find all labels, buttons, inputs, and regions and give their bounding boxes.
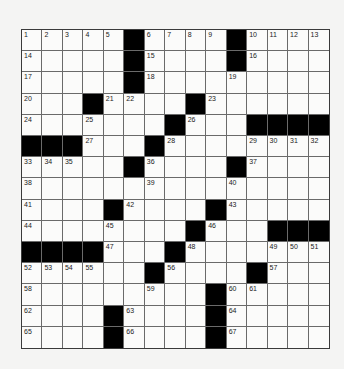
grid-cell[interactable] (206, 51, 226, 72)
grid-cell[interactable]: 44 (22, 221, 42, 242)
grid-cell[interactable]: 4 (83, 30, 103, 51)
grid-cell[interactable]: 10 (247, 30, 267, 51)
grid-cell[interactable]: 12 (288, 30, 308, 51)
grid-cell[interactable] (206, 178, 226, 199)
grid-cell[interactable]: 64 (227, 306, 247, 327)
grid-cell[interactable] (42, 327, 62, 348)
grid-cell[interactable]: 42 (124, 200, 144, 221)
grid-cell[interactable] (42, 51, 62, 72)
grid-cell[interactable] (42, 178, 62, 199)
grid-cell[interactable] (268, 200, 288, 221)
grid-cell[interactable] (83, 157, 103, 178)
grid-cell[interactable]: 7 (165, 30, 185, 51)
grid-cell[interactable]: 26 (186, 115, 206, 136)
grid-cell[interactable] (268, 327, 288, 348)
grid-cell[interactable] (104, 263, 124, 284)
grid-cell[interactable] (227, 221, 247, 242)
grid-cell[interactable] (186, 178, 206, 199)
grid-cell[interactable] (42, 284, 62, 305)
grid-cell[interactable]: 2 (42, 30, 62, 51)
grid-cell[interactable]: 55 (83, 263, 103, 284)
grid-cell[interactable]: 46 (206, 221, 226, 242)
grid-cell[interactable]: 34 (42, 157, 62, 178)
grid-cell[interactable] (288, 51, 308, 72)
grid-cell[interactable] (268, 284, 288, 305)
grid-cell[interactable] (247, 327, 267, 348)
grid-cell[interactable] (63, 221, 83, 242)
grid-cell[interactable] (83, 284, 103, 305)
grid-cell[interactable]: 6 (145, 30, 165, 51)
grid-cell[interactable] (268, 51, 288, 72)
grid-cell[interactable] (124, 115, 144, 136)
grid-cell[interactable] (309, 327, 329, 348)
grid-cell[interactable]: 67 (227, 327, 247, 348)
grid-cell[interactable]: 56 (165, 263, 185, 284)
grid-cell[interactable]: 62 (22, 306, 42, 327)
grid-cell[interactable]: 38 (22, 178, 42, 199)
grid-cell[interactable] (104, 157, 124, 178)
grid-cell[interactable]: 25 (83, 115, 103, 136)
grid-cell[interactable] (227, 115, 247, 136)
grid-cell[interactable] (309, 200, 329, 221)
grid-cell[interactable]: 21 (104, 94, 124, 115)
grid-cell[interactable] (288, 200, 308, 221)
grid-cell[interactable]: 47 (104, 242, 124, 263)
grid-cell[interactable] (309, 263, 329, 284)
grid-cell[interactable] (247, 242, 267, 263)
grid-cell[interactable]: 1 (22, 30, 42, 51)
grid-cell[interactable]: 27 (83, 136, 103, 157)
grid-cell[interactable] (268, 306, 288, 327)
grid-cell[interactable] (145, 221, 165, 242)
grid-cell[interactable]: 43 (227, 200, 247, 221)
grid-cell[interactable] (42, 221, 62, 242)
grid-cell[interactable] (104, 284, 124, 305)
grid-cell[interactable] (288, 94, 308, 115)
grid-cell[interactable] (145, 242, 165, 263)
grid-cell[interactable] (42, 72, 62, 93)
grid-cell[interactable] (104, 136, 124, 157)
grid-cell[interactable] (288, 327, 308, 348)
grid-cell[interactable]: 28 (165, 136, 185, 157)
grid-cell[interactable] (145, 306, 165, 327)
grid-cell[interactable]: 17 (22, 72, 42, 93)
grid-cell[interactable] (83, 51, 103, 72)
grid-cell[interactable]: 61 (247, 284, 267, 305)
grid-cell[interactable] (165, 327, 185, 348)
grid-cell[interactable] (124, 242, 144, 263)
grid-cell[interactable] (42, 115, 62, 136)
grid-cell[interactable]: 32 (309, 136, 329, 157)
grid-cell[interactable] (124, 263, 144, 284)
grid-cell[interactable] (165, 284, 185, 305)
grid-cell[interactable]: 63 (124, 306, 144, 327)
grid-cell[interactable] (165, 51, 185, 72)
grid-cell[interactable] (186, 136, 206, 157)
grid-cell[interactable] (227, 136, 247, 157)
grid-cell[interactable] (206, 242, 226, 263)
grid-cell[interactable] (268, 94, 288, 115)
grid-cell[interactable] (309, 178, 329, 199)
grid-cell[interactable] (247, 94, 267, 115)
grid-cell[interactable] (268, 72, 288, 93)
grid-cell[interactable]: 3 (63, 30, 83, 51)
grid-cell[interactable]: 60 (227, 284, 247, 305)
grid-cell[interactable] (206, 136, 226, 157)
grid-cell[interactable] (63, 200, 83, 221)
grid-cell[interactable] (288, 178, 308, 199)
grid-cell[interactable] (42, 200, 62, 221)
grid-cell[interactable] (165, 94, 185, 115)
grid-cell[interactable] (186, 72, 206, 93)
grid-cell[interactable] (288, 284, 308, 305)
grid-cell[interactable]: 11 (268, 30, 288, 51)
grid-cell[interactable] (124, 221, 144, 242)
grid-cell[interactable] (42, 306, 62, 327)
grid-cell[interactable] (186, 284, 206, 305)
grid-cell[interactable] (309, 94, 329, 115)
grid-cell[interactable]: 9 (206, 30, 226, 51)
grid-cell[interactable] (124, 136, 144, 157)
grid-cell[interactable] (186, 51, 206, 72)
grid-cell[interactable] (247, 306, 267, 327)
grid-cell[interactable] (227, 94, 247, 115)
grid-cell[interactable] (165, 72, 185, 93)
grid-cell[interactable]: 39 (145, 178, 165, 199)
grid-cell[interactable]: 40 (227, 178, 247, 199)
